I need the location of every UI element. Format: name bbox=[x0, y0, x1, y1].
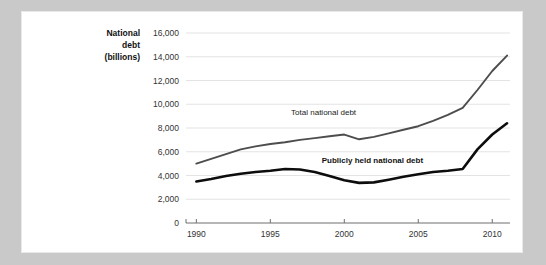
series-line-publicly-held-national-debt bbox=[196, 123, 507, 183]
series-labels: Total national debtPublicly held nationa… bbox=[291, 108, 423, 165]
y-tick-label: 10,000 bbox=[153, 99, 179, 109]
y-axis-title-line: debt bbox=[122, 40, 140, 50]
x-tick-label: 2005 bbox=[409, 229, 428, 239]
x-tick-label: 1990 bbox=[187, 229, 206, 239]
y-tick-label: 4,000 bbox=[158, 171, 180, 181]
y-tick-label: 12,000 bbox=[153, 76, 179, 86]
y-tick-label: 6,000 bbox=[158, 147, 180, 157]
y-tick-label: 0 bbox=[174, 218, 179, 228]
y-tick-label: 2,000 bbox=[158, 194, 180, 204]
y-axis-title-line: National bbox=[106, 28, 140, 38]
national-debt-line-chart: 02,0004,0006,0008,00010,00012,00014,0001… bbox=[22, 12, 522, 252]
x-tick-label: 2000 bbox=[335, 229, 354, 239]
x-axis bbox=[186, 219, 510, 223]
y-tick-label: 16,000 bbox=[153, 28, 179, 38]
chart-card: 02,0004,0006,0008,00010,00012,00014,0001… bbox=[22, 12, 522, 252]
series-label-total-national-debt: Total national debt bbox=[291, 108, 357, 117]
x-axis-tick-labels: 19901995200020052010 bbox=[187, 229, 502, 239]
figure-root: 02,0004,0006,0008,00010,00012,00014,0001… bbox=[0, 0, 546, 265]
y-axis-tick-labels: 02,0004,0006,0008,00010,00012,00014,0001… bbox=[153, 28, 179, 228]
x-tick-label: 2010 bbox=[483, 229, 502, 239]
series-label-publicly-held-national-debt: Publicly held national debt bbox=[322, 156, 424, 165]
y-axis-title-line: (billions) bbox=[105, 52, 141, 62]
y-axis-title: Nationaldebt(billions) bbox=[105, 28, 141, 62]
y-tick-label: 8,000 bbox=[158, 123, 180, 133]
y-tick-label: 14,000 bbox=[153, 52, 179, 62]
x-tick-label: 1995 bbox=[261, 229, 280, 239]
